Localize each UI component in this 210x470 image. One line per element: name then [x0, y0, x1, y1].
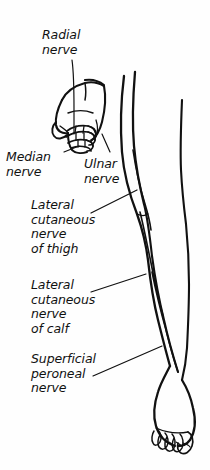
leader-lcc [91, 274, 146, 292]
foot-illustration [152, 366, 195, 454]
label-superficial-peroneal-nerve: Superficial peroneal nerve [31, 352, 96, 396]
leader-spn [93, 346, 162, 376]
label-ulnar-nerve: Ulnar nerve [84, 157, 119, 186]
label-median-nerve: Median nerve [6, 150, 51, 179]
leader-radial [72, 60, 74, 134]
label-lateral-cutaneous-nerve-of-calf: Lateral cutaneous nerve of calf [31, 278, 95, 336]
leader-lct [91, 190, 137, 213]
leg-illustration [121, 72, 189, 380]
hand-illustration [52, 80, 105, 153]
leader-ulnar [102, 134, 110, 152]
label-lateral-cutaneous-nerve-of-thigh: Lateral cutaneous nerve of thigh [31, 198, 95, 256]
label-radial-nerve: Radial nerve [42, 28, 80, 57]
nerve-diagram-figure: Radial nerve Median nerve Ulnar nerve La… [0, 0, 210, 470]
